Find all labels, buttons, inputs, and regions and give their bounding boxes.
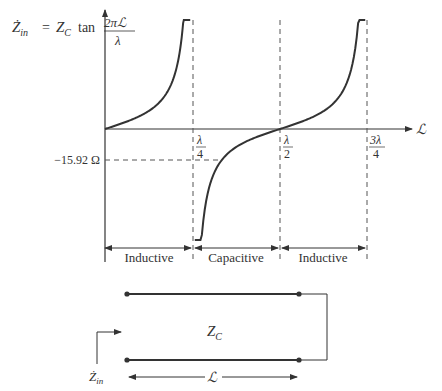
tick-den: 4 [197, 147, 203, 161]
eq-zc: ZC [56, 19, 71, 38]
region-label-1: Inductive [124, 250, 173, 265]
region-label-3: Inductive [298, 250, 347, 265]
short-circuit-wire [299, 294, 327, 360]
region-label-2: Capacitive [208, 250, 264, 265]
terminal-dot [124, 357, 129, 362]
transmission-line-circuit: ZC Żin ℒ [89, 291, 327, 386]
length-label: ℒ [207, 370, 218, 385]
y-marker-label: −15.92 Ω [54, 153, 100, 167]
tick-3lambda-4: 3λ 4 [369, 133, 385, 161]
tick-num: λ [196, 133, 202, 147]
tick-den: 4 [373, 147, 379, 161]
tick-num: λ [283, 133, 289, 147]
x-axis-label: ℒ [416, 122, 427, 137]
tick-num: 3λ [369, 133, 381, 147]
zin-arrow [97, 332, 121, 364]
eq-frac-den: λ [114, 33, 121, 48]
eq-zin: Żin [12, 19, 28, 38]
circuit-zin-label: Żin [89, 369, 104, 386]
diagram: Żin = ZC tan 2πℒ λ ℒ −15.92 Ω λ 4 λ 2 3λ… [0, 0, 442, 391]
tick-lambda-4: λ 4 [196, 133, 206, 161]
terminal-dot [124, 291, 129, 296]
equation: Żin = ZC tan 2πℒ λ [12, 15, 135, 48]
eq-frac-num: 2πℒ [104, 15, 127, 30]
eq-equals: = [42, 20, 50, 35]
tick-den: 2 [284, 147, 290, 161]
curve-capacitive-inductive [195, 20, 365, 240]
tick-lambda-2: λ 2 [283, 133, 293, 161]
eq-tan: tan [78, 20, 95, 35]
circuit-zc-label: ZC [207, 323, 222, 342]
